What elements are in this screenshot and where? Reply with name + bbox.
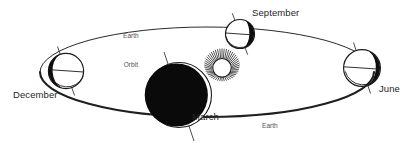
orbit-path-back — [40, 27, 374, 72]
sun-icon — [204, 49, 240, 82]
earth-june — [344, 43, 381, 94]
earth-march — [145, 52, 212, 141]
earth-orbit-diagram: December March September June Earth Orbi… — [0, 0, 415, 149]
earth-september — [226, 13, 255, 54]
orbit-illustration — [0, 0, 415, 149]
